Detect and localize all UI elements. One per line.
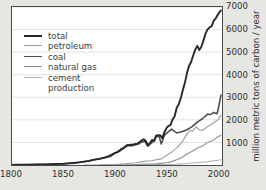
legend-swatch-natural-gas bbox=[24, 66, 42, 67]
y-tick-label: 1000 bbox=[226, 138, 248, 148]
legend-swatch-total bbox=[24, 35, 42, 37]
legend-swatch-petroleum bbox=[24, 45, 42, 46]
y-axis-title: million metric tons of carbon / year bbox=[251, 6, 263, 166]
y-tick-label: 5000 bbox=[226, 47, 248, 57]
emissions-line-chart-figure: total petroleum coal natural gas cement … bbox=[0, 0, 266, 190]
x-tick-label: 1900 bbox=[104, 169, 126, 179]
legend-label-petroleum: petroleum bbox=[48, 41, 92, 51]
legend-item-natural-gas: natural gas bbox=[24, 62, 120, 72]
y-axis-title-text: million metric tons of carbon / year bbox=[251, 6, 261, 166]
legend-label-natural-gas: natural gas bbox=[48, 62, 97, 72]
y-tick-label: 4000 bbox=[226, 70, 248, 80]
legend-item-cement: cement bbox=[24, 73, 120, 83]
x-tick-label: 1950 bbox=[156, 169, 178, 179]
legend-label-coal: coal bbox=[48, 52, 66, 62]
x-tick-label: 1800 bbox=[0, 169, 22, 179]
legend-item-total: total bbox=[24, 31, 120, 41]
y-tick-label: 3000 bbox=[226, 92, 248, 102]
legend-item-petroleum: petroleum bbox=[24, 41, 120, 51]
legend-label-cement: cement bbox=[48, 73, 81, 83]
x-tick-label: 1850 bbox=[52, 169, 74, 179]
legend-label-total: total bbox=[48, 31, 68, 41]
y-tick-label: 2000 bbox=[226, 115, 248, 125]
legend-item-coal: coal bbox=[24, 52, 120, 62]
y-tick-label: 6000 bbox=[226, 24, 248, 34]
chart-legend: total petroleum coal natural gas cement … bbox=[24, 31, 120, 93]
x-tick-label: 2000 bbox=[208, 169, 230, 179]
legend-swatch-cement bbox=[24, 77, 42, 78]
y-tick-label: 7000 bbox=[226, 1, 248, 11]
legend-label-cement-continued: production bbox=[48, 83, 120, 93]
legend-swatch-coal bbox=[24, 56, 42, 58]
